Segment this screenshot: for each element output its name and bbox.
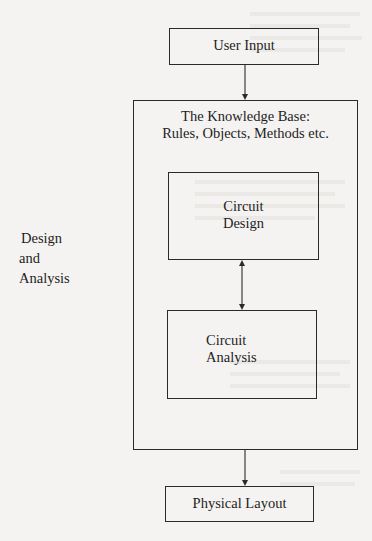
arrowhead-up-icon	[239, 260, 245, 266]
connector-arrows	[0, 0, 372, 541]
arrowhead-down-icon	[242, 94, 248, 100]
arrowhead-down-icon	[239, 304, 245, 310]
arrowhead-down-icon	[242, 480, 248, 486]
